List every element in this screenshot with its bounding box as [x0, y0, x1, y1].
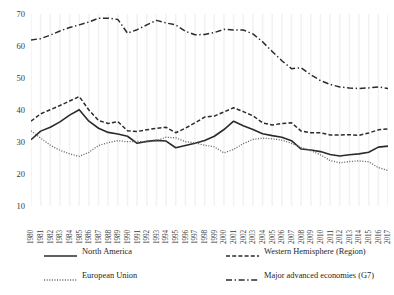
x-tick-label: 1993 [154, 230, 162, 244]
x-tick-label: 1984 [67, 230, 75, 244]
x-tick-label: 2006 [279, 230, 287, 244]
x-tick-label: 1991 [135, 230, 143, 244]
legend-label: North America [82, 247, 132, 257]
x-tick-label: 1980 [28, 230, 36, 244]
x-tick-label: 2013 [347, 230, 355, 244]
legend-label: European Union [82, 271, 137, 281]
legend-item-north-america[interactable]: North America [44, 245, 132, 259]
x-tick-label: 2016 [376, 230, 384, 244]
x-tick-label: 2001 [231, 230, 239, 244]
plot-area [31, 14, 388, 206]
x-tick-label: 1994 [163, 230, 171, 244]
y-tick-label: 10 [17, 202, 26, 211]
x-tick-label: 1996 [183, 230, 191, 244]
x-tick-label: 1982 [48, 230, 56, 244]
x-tick-label: 1981 [38, 230, 46, 244]
gridlines [31, 14, 388, 206]
x-tick-label: 1988 [106, 230, 114, 244]
legend-label: Western Hemisphere (Region) [264, 247, 366, 257]
plot-svg [31, 14, 388, 206]
x-tick-label: 1987 [96, 230, 104, 244]
legend-swatch-dashed-icon [226, 247, 259, 257]
x-tick-label: 1989 [115, 230, 123, 244]
legend-swatch-solid-icon [44, 247, 77, 257]
x-tick-label: 2004 [260, 230, 268, 244]
series-line-3 [31, 18, 388, 88]
x-tick-label: 1990 [125, 230, 133, 244]
x-tick-label: 2012 [337, 230, 345, 244]
legend-swatch-dotted-icon [44, 271, 77, 281]
x-tick-label: 1995 [173, 230, 181, 244]
y-tick-label: 40 [17, 106, 26, 115]
x-tick-label: 2008 [299, 230, 307, 244]
series-line-2 [31, 131, 388, 171]
x-tick-label: 2010 [318, 230, 326, 244]
x-tick-label: 2003 [250, 230, 258, 244]
x-tick-label: 2005 [270, 230, 278, 244]
x-tick-label: 2002 [241, 230, 249, 244]
x-tick-label: 2014 [356, 230, 364, 244]
x-tick-label: 1985 [77, 230, 85, 244]
x-tick-label: 2000 [221, 230, 229, 244]
x-tick-label: 1997 [192, 230, 200, 244]
y-tick-label: 20 [17, 170, 26, 179]
x-tick-label: 2015 [366, 230, 374, 244]
y-tick-label: 70 [17, 10, 26, 19]
x-tick-label: 2011 [328, 230, 336, 244]
chart-figure: 10203040506070 1980198119821983198419851… [0, 0, 394, 295]
x-tick-label: 2009 [308, 230, 316, 244]
x-tick-label: 1983 [57, 230, 65, 244]
x-tick-label: 2017 [385, 230, 393, 244]
legend-item-western-hemisphere[interactable]: Western Hemisphere (Region) [226, 245, 366, 259]
legend-item-european-union[interactable]: European Union [44, 269, 137, 283]
y-axis: 10203040506070 [0, 0, 31, 230]
chart-legend: North America Western Hemisphere (Region… [0, 243, 394, 293]
legend-swatch-dashdot-icon [226, 271, 259, 281]
x-tick-label: 1986 [86, 230, 94, 244]
x-tick-label: 2007 [289, 230, 297, 244]
y-tick-label: 60 [17, 42, 26, 51]
y-tick-label: 50 [17, 74, 26, 83]
x-tick-label: 1998 [202, 230, 210, 244]
y-tick-label: 30 [17, 138, 26, 147]
x-tick-label: 1999 [212, 230, 220, 244]
legend-item-g7[interactable]: Major advanced economies (G7) [226, 269, 374, 283]
x-axis: 1980198119821983198419851986198719881989… [31, 206, 388, 236]
x-tick-label: 1992 [144, 230, 152, 244]
legend-label: Major advanced economies (G7) [264, 271, 374, 281]
